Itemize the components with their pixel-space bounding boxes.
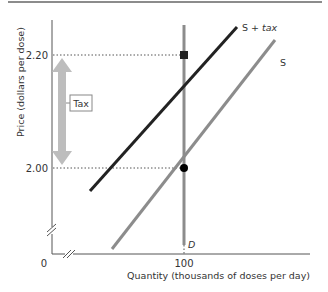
s-tax-label: S + tax: [242, 22, 278, 33]
equilibrium-with-tax: [180, 51, 188, 59]
y-axis-title: Price (dollars per dose): [15, 27, 26, 137]
s-label: S: [280, 57, 286, 68]
x-tick-100: 100: [174, 258, 193, 269]
y-tick-200: 2.00: [26, 163, 48, 174]
x-axis-title: Quantity (thousands of doses per day): [127, 270, 310, 281]
y-tick-220: 2.20: [26, 50, 48, 61]
tax-double-arrow-icon: [52, 58, 72, 165]
tax-label: Tax: [72, 98, 89, 109]
supply-curve: [112, 40, 275, 249]
x-tick-0: 0: [41, 258, 47, 269]
d-label: D: [188, 239, 195, 250]
equilibrium-no-tax: [180, 164, 188, 172]
supply-plus-tax-curve: [90, 27, 237, 191]
chart-canvas: Tax S + tax S D 2.20 2.00 0 100 Quantity…: [0, 0, 328, 292]
